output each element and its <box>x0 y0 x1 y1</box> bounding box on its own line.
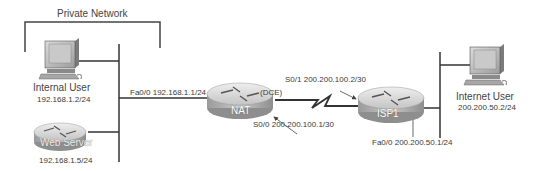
isp-s0-1-label: S0/1 200.200.100.2/30 <box>285 76 366 84</box>
nat-dce-label: (DCE) <box>260 89 282 97</box>
web-server-name: Web Server <box>40 138 93 148</box>
nat-router-name: NAT <box>231 106 250 116</box>
pc-icon-internal-user <box>39 38 82 79</box>
internet-user-name: Internet User <box>456 92 514 102</box>
pc-icon-internet-user <box>464 44 507 85</box>
isp-fa0-0-label: Fa0/0 200.200.50.1/24 <box>372 139 453 147</box>
web-server-ip: 192.168.1.5/24 <box>39 157 92 165</box>
arrow-isp-s0-1 <box>340 91 356 99</box>
private-network-label: Private Network <box>57 9 128 19</box>
isp-router-name: ISP1 <box>377 109 399 119</box>
internet-user-ip: 200.200.50.2/24 <box>458 104 516 112</box>
internal-user-name: Internal User <box>33 83 90 93</box>
nat-fa0-0-label: Fa0/0 192.168.1.1/24 <box>130 89 206 97</box>
nat-s0-0-label: S0/0 200.200.100.1/30 <box>253 121 334 129</box>
internal-user-ip: 192.168.1.2/24 <box>37 96 90 104</box>
